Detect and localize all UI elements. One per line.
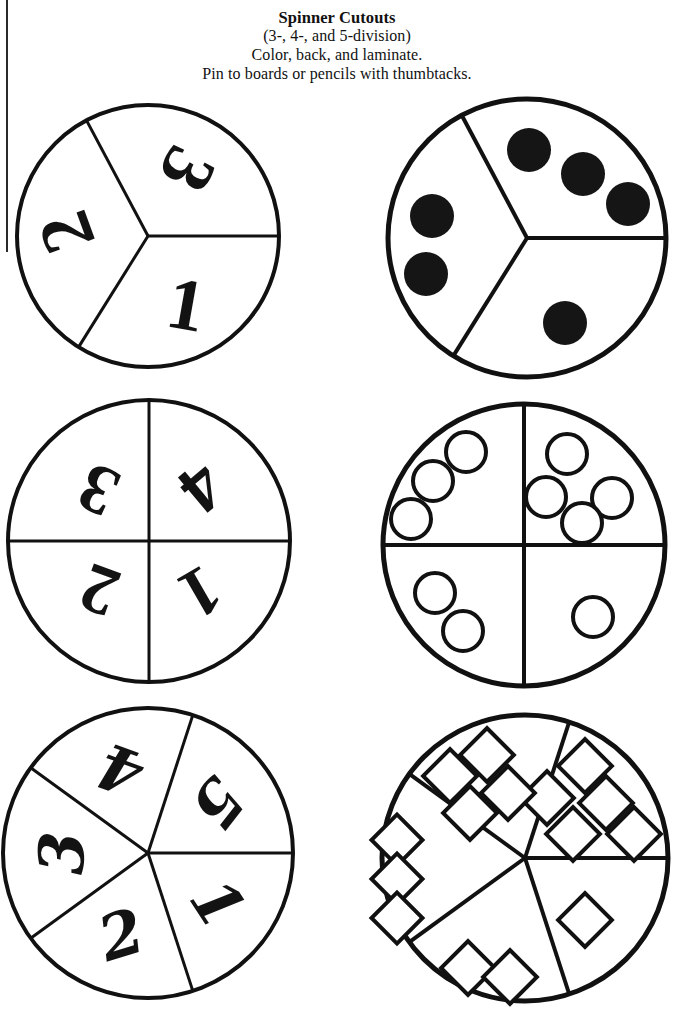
header-subtitle-divisions: (3-, 4-, and 5-division): [0, 27, 674, 46]
spinner-pip-dot: [543, 301, 587, 345]
spinner-5-diamonds[interactable]: [365, 698, 674, 1011]
spinner-4-circles[interactable]: [366, 387, 674, 703]
spinner-pip-dot: [410, 194, 454, 238]
spinner-pip-dot: [507, 128, 551, 172]
spinner-pip-circle: [547, 434, 587, 474]
page-title: Spinner Cutouts: [0, 8, 674, 27]
spinner-pip-circle: [526, 477, 566, 517]
spinner-pip-circle: [443, 611, 483, 651]
spinner-3-dots[interactable]: [371, 82, 674, 394]
spinner-pip-circle: [573, 597, 613, 637]
spinner-4-numerals[interactable]: 3421: [0, 384, 306, 698]
page-header: Spinner Cutouts (3-, 4-, and 5-division)…: [0, 8, 674, 84]
header-instruction-color: Color, back, and laminate.: [0, 46, 674, 65]
spinner-pip-circle: [446, 432, 486, 472]
spinner-pip-dot: [561, 152, 605, 196]
spinner-pip-circle: [391, 499, 431, 539]
spinner-pip-circle: [413, 461, 453, 501]
spinner-sector-numeral: 3: [25, 830, 99, 876]
spinner-3-numerals[interactable]: 321: [1, 89, 295, 383]
spinner-pip-dot: [606, 182, 650, 226]
spinner-pip-circle: [415, 573, 455, 613]
spinner-pip-circle: [562, 503, 602, 543]
spinner-5-numerals[interactable]: 54321: [0, 692, 309, 1011]
spinner-pip-dot: [404, 252, 448, 296]
